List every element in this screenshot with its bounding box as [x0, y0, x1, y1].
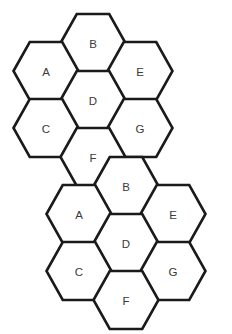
hex-cell-label: C — [42, 123, 50, 135]
hex-cell-label: B — [89, 38, 97, 50]
hexagon-layer: BAEDCGFBAEDCGF — [14, 14, 206, 329]
hex-cell-label: E — [136, 66, 144, 78]
hex-cell-label: G — [169, 266, 178, 278]
hex-cell-label: C — [75, 266, 83, 278]
hex-cell-label: F — [89, 152, 96, 164]
lower-cluster: BAEDCGF — [47, 157, 206, 329]
hexagon-diagram: BAEDCGFBAEDCGF — [0, 0, 232, 334]
hex-cell-label: D — [89, 95, 97, 107]
hex-cell-label: F — [122, 295, 129, 307]
hex-cell-label: D — [122, 238, 130, 250]
hexagon-svg-canvas: BAEDCGFBAEDCGF — [0, 0, 232, 334]
hex-cell-label: A — [42, 66, 50, 78]
hex-cell-label: B — [122, 181, 130, 193]
upper-cluster: BAEDCGF — [14, 14, 173, 186]
hex-cell-label: A — [75, 209, 83, 221]
hex-cell-label: G — [136, 123, 145, 135]
hex-cell-label: E — [169, 209, 177, 221]
